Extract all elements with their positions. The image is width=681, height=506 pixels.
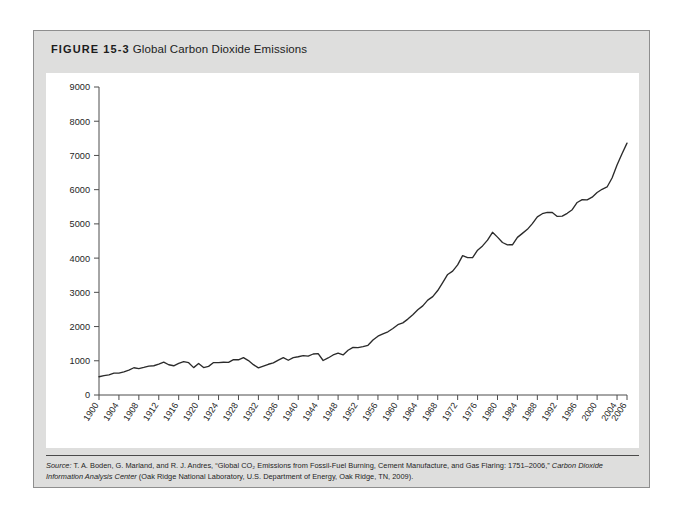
x-axis-tick-label: 1948 bbox=[320, 401, 339, 423]
x-axis-tick-label: 1920 bbox=[181, 401, 200, 423]
x-axis-tick-label: 1996 bbox=[560, 401, 579, 423]
y-axis-tick-label: 3000 bbox=[70, 288, 90, 298]
source-lead-label: Source: bbox=[46, 461, 72, 470]
x-axis-tick-label: 1908 bbox=[121, 401, 140, 423]
x-axis-tick-label: 1984 bbox=[500, 401, 519, 423]
x-axis-tick-label: 1940 bbox=[281, 401, 300, 423]
y-axis-tick-label: 9000 bbox=[70, 82, 90, 92]
chart-plot-panel: 0100020003000400050006000700080009000 19… bbox=[46, 73, 639, 448]
x-axis-tick-label: 1900 bbox=[81, 401, 100, 423]
x-axis-tick-label: 1992 bbox=[540, 401, 559, 423]
y-axis-tick-label: 7000 bbox=[70, 151, 90, 161]
x-axis-tick-label: 1912 bbox=[141, 401, 160, 423]
figure-title: FIGURE 15-3Global Carbon Dioxide Emissio… bbox=[51, 43, 307, 55]
y-axis-tick-label: 0 bbox=[85, 390, 90, 400]
x-axis-tick-label: 1960 bbox=[380, 401, 399, 423]
x-axis-tick-label: 1944 bbox=[301, 401, 320, 423]
source-divider bbox=[46, 455, 639, 456]
y-axis-tick-label: 4000 bbox=[70, 254, 90, 264]
x-axis-tick-label: 1924 bbox=[201, 401, 220, 423]
x-axis-tick-label: 1968 bbox=[420, 401, 439, 423]
x-axis-tick-label: 1936 bbox=[261, 401, 280, 423]
y-axis: 0100020003000400050006000700080009000 bbox=[70, 82, 99, 400]
x-axis-tick-label: 1932 bbox=[241, 401, 260, 423]
x-axis-tick-label: 2000 bbox=[579, 401, 598, 423]
x-axis-tick-label: 1980 bbox=[480, 401, 499, 423]
x-axis-tick-label: 1972 bbox=[440, 401, 459, 423]
source-text-second: (Oak Ridge National Laboratory, U.S. Dep… bbox=[137, 472, 413, 481]
y-axis-tick-label: 5000 bbox=[70, 219, 90, 229]
y-axis-tick-label: 6000 bbox=[70, 185, 90, 195]
co2-emissions-line-chart: 0100020003000400050006000700080009000 19… bbox=[46, 73, 639, 448]
x-axis-tick-label: 1916 bbox=[161, 401, 180, 423]
y-axis-tick-label: 1000 bbox=[70, 356, 90, 366]
x-axis-tick-label: 1976 bbox=[460, 401, 479, 423]
source-text-first: T. A. Boden, G. Marland, and R. J. Andre… bbox=[72, 461, 552, 470]
figure-caption-label: Global Carbon Dioxide Emissions bbox=[133, 43, 307, 55]
x-axis-tick-label: 1928 bbox=[221, 401, 240, 423]
x-axis: 1900190419081912191619201924192819321936… bbox=[81, 395, 628, 423]
figure-number-label: FIGURE 15-3 bbox=[51, 43, 130, 55]
co2-emissions-series-line bbox=[99, 143, 627, 377]
y-axis-tick-label: 8000 bbox=[70, 117, 90, 127]
y-axis-tick-label: 2000 bbox=[70, 322, 90, 332]
figure-card: FIGURE 15-3Global Carbon Dioxide Emissio… bbox=[33, 30, 650, 488]
source-citation: Source: T. A. Boden, G. Marland, and R. … bbox=[46, 461, 642, 482]
x-axis-tick-label: 1956 bbox=[360, 401, 379, 423]
x-axis-tick-label: 1964 bbox=[400, 401, 419, 423]
x-axis-tick-label: 1988 bbox=[520, 401, 539, 423]
x-axis-tick-label: 1952 bbox=[340, 401, 359, 423]
x-axis-tick-label: 1904 bbox=[101, 401, 120, 423]
